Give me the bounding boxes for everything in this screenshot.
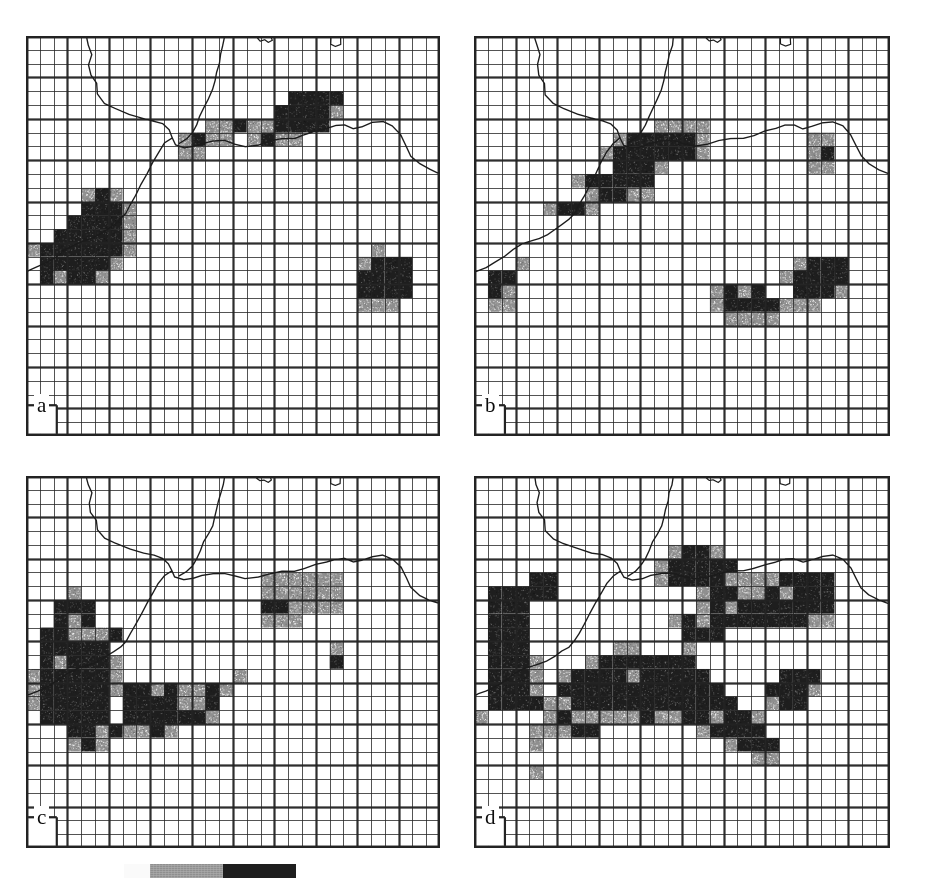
legend-texture-medium (150, 864, 223, 878)
panel-d-label: d (482, 806, 499, 830)
panel-c-label: c (34, 806, 49, 830)
panel-a: a (26, 36, 440, 436)
legend-segment-low (124, 864, 150, 878)
panel-b-label: b (482, 394, 499, 418)
legend-segment-medium (150, 864, 223, 878)
legend-segment-high (223, 864, 296, 878)
panel-d: d (474, 476, 890, 848)
panel-a-map (26, 36, 440, 436)
panel-c: c (26, 476, 440, 848)
shading-legend (150, 864, 296, 878)
figure-root: a b c d (0, 0, 936, 895)
panel-b-map (474, 36, 890, 436)
panel-d-map (474, 476, 890, 848)
panel-c-map (26, 476, 440, 848)
panel-a-label: a (34, 394, 49, 418)
panel-b: b (474, 36, 890, 436)
